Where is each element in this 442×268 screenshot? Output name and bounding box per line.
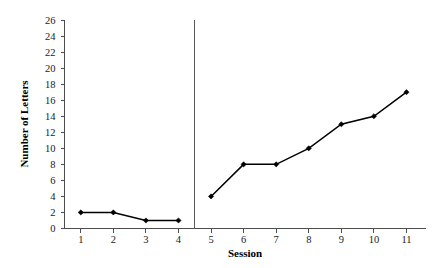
x-tick-label: 6 xyxy=(241,234,246,245)
series-markers xyxy=(78,90,409,224)
data-point-marker xyxy=(176,218,181,223)
y-tick-label: 12 xyxy=(45,127,56,138)
y-tick-label: 16 xyxy=(45,95,56,106)
x-tick-label: 10 xyxy=(369,234,380,245)
y-axis-tick-marks xyxy=(61,20,65,229)
series-line-2 xyxy=(211,92,406,196)
line-chart: 02468101214161820222426 1234567891011 Se… xyxy=(0,0,442,268)
y-tick-label: 0 xyxy=(50,223,55,234)
x-axis-tick-marks xyxy=(81,229,407,233)
y-tick-label: 14 xyxy=(45,111,56,122)
y-tick-label: 24 xyxy=(45,31,56,42)
x-tick-label: 1 xyxy=(78,234,83,245)
data-point-marker xyxy=(78,210,83,215)
data-point-marker xyxy=(274,162,279,167)
y-tick-label: 22 xyxy=(45,47,56,58)
x-tick-label: 8 xyxy=(306,234,311,245)
y-axis-title: Number of Letters xyxy=(18,80,30,168)
x-tick-label: 2 xyxy=(111,234,116,245)
y-tick-label: 10 xyxy=(45,143,56,154)
y-tick-label: 20 xyxy=(45,63,56,74)
x-tick-label: 5 xyxy=(208,234,213,245)
x-axis-title: Session xyxy=(228,247,262,259)
y-axis-tick-labels: 02468101214161820222426 xyxy=(45,15,56,235)
chart-figure: 02468101214161820222426 1234567891011 Se… xyxy=(0,0,442,268)
x-tick-label: 3 xyxy=(143,234,148,245)
x-tick-label: 7 xyxy=(274,234,279,245)
x-tick-label: 11 xyxy=(401,234,411,245)
data-point-marker xyxy=(111,210,116,215)
y-tick-label: 6 xyxy=(50,175,55,186)
series-lines xyxy=(81,92,407,220)
y-tick-label: 18 xyxy=(45,79,56,90)
x-axis-tick-labels: 1234567891011 xyxy=(78,234,411,245)
y-tick-label: 26 xyxy=(45,15,56,26)
data-point-marker xyxy=(143,218,148,223)
series-line-1 xyxy=(81,212,179,220)
x-tick-label: 4 xyxy=(176,234,182,245)
y-tick-label: 8 xyxy=(50,159,55,170)
x-tick-label: 9 xyxy=(339,234,344,245)
y-tick-label: 2 xyxy=(50,207,55,218)
y-tick-label: 4 xyxy=(50,191,56,202)
